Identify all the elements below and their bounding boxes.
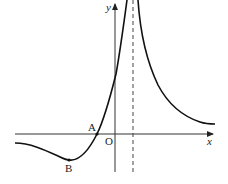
label-point-b: B: [65, 162, 72, 174]
label-y-axis: y: [105, 1, 111, 13]
function-graph: A B O x y: [0, 0, 228, 184]
curve-right-branch: [138, 0, 215, 124]
label-point-a: A: [88, 121, 96, 133]
label-x-axis: x: [206, 135, 212, 147]
label-origin: O: [105, 135, 113, 147]
